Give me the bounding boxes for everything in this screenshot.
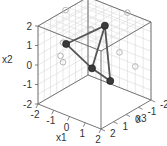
x3-tick	[126, 115, 130, 117]
x2-tick-label: 2	[26, 21, 32, 32]
x1-axis-title: x1	[56, 132, 67, 143]
x2-tick-label: -1	[23, 79, 32, 90]
x2-axis-title: x2	[2, 54, 13, 65]
x2-tick-label: 0	[26, 60, 32, 71]
x1-tick-label: -2	[31, 109, 40, 120]
x3-tick-label: 2	[110, 128, 116, 139]
scatter3d-chart: -2-1012-2-1012-2-1012 x1 x2 x3	[0, 0, 167, 146]
x1-tick-label: 2	[95, 134, 101, 145]
x3-tick	[151, 100, 155, 102]
x1-tick	[36, 104, 38, 108]
x1-tick-label: -1	[46, 115, 55, 126]
data-point	[89, 65, 96, 72]
connecting-line	[66, 26, 105, 44]
x2-tick-label: 1	[26, 40, 32, 51]
x3-tick-label: 1	[123, 121, 129, 132]
x3-tick-label: -1	[148, 106, 157, 117]
x1-tick	[99, 129, 101, 133]
data-point	[63, 40, 70, 47]
x1-tick	[68, 117, 70, 121]
grid-line	[63, 12, 126, 37]
x1-tick-label: 1	[79, 128, 85, 139]
data-point	[101, 22, 108, 29]
grid-line	[85, 16, 135, 45]
x1-tick-label: 0	[64, 122, 70, 133]
x2-tick-label: -2	[23, 99, 32, 110]
shadow-point	[58, 53, 64, 59]
data-point	[107, 77, 114, 84]
x3-axis-title: x3	[136, 113, 147, 124]
x1-tick	[83, 123, 85, 127]
x3-tick	[114, 122, 118, 124]
grid-line	[93, 19, 143, 48]
x3-tick-label: -2	[160, 99, 167, 110]
x1-tick	[52, 110, 54, 114]
x3-tick	[101, 129, 105, 131]
x3-tick	[139, 107, 143, 109]
chart-box	[38, 0, 151, 129]
